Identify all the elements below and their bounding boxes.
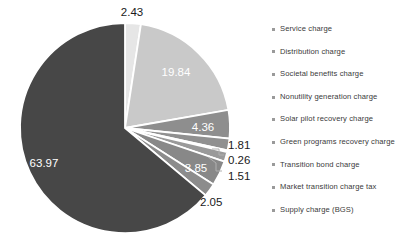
legend-marker-icon xyxy=(272,50,275,53)
legend-item-market-transition-charge-tax[interactable]: Market transition charge tax xyxy=(272,176,410,199)
slice-label-transition-bond-charge: 3.85 xyxy=(185,162,207,174)
legend-marker-icon xyxy=(272,141,275,144)
slice-label-green-programs-recovery-charge: 1.51 xyxy=(228,170,250,182)
legend-label: Distribution charge xyxy=(280,41,345,64)
slice-label-nonutility-generation-charge: 1.81 xyxy=(228,139,250,151)
legend-marker-icon xyxy=(272,96,275,99)
pie-chart: 2.43 19.84 4.36 1.81 0.26 1.51 3.85 2.05… xyxy=(0,0,260,242)
legend-label: Nonutility generation charge xyxy=(280,86,377,109)
legend-marker-icon xyxy=(272,118,275,121)
pie-chart-page: 2.43 19.84 4.36 1.81 0.26 1.51 3.85 2.05… xyxy=(0,0,410,242)
legend: Service charge Distribution charge Socie… xyxy=(272,18,410,228)
slice-label-service-charge: 2.43 xyxy=(121,6,143,18)
legend-label: Market transition charge tax xyxy=(280,176,377,199)
legend-label: Supply charge (BGS) xyxy=(280,199,354,222)
legend-item-nonutility-generation-charge[interactable]: Nonutility generation charge xyxy=(272,86,410,109)
legend-label: Solar pilot recovery charge xyxy=(280,108,373,131)
legend-marker-icon xyxy=(272,163,275,166)
legend-marker-icon xyxy=(272,209,275,212)
slice-label-supply-charge-bgs: 63.97 xyxy=(30,157,59,169)
legend-item-service-charge[interactable]: Service charge xyxy=(272,18,410,41)
legend-label: Service charge xyxy=(280,18,332,41)
legend-item-solar-pilot-recovery-charge[interactable]: Solar pilot recovery charge xyxy=(272,108,410,131)
legend-marker-icon xyxy=(272,28,275,31)
legend-label: Green programs recovery charge xyxy=(280,131,395,154)
legend-item-transition-bond-charge[interactable]: Transition bond charge xyxy=(272,154,410,177)
legend-label: Societal benefits charge xyxy=(280,63,363,86)
legend-marker-icon xyxy=(272,186,275,189)
legend-marker-icon xyxy=(272,73,275,76)
slice-label-solar-pilot-recovery-charge: 0.26 xyxy=(228,154,250,166)
legend-label: Transition bond charge xyxy=(280,154,360,177)
legend-item-supply-charge-bgs[interactable]: Supply charge (BGS) xyxy=(272,199,410,222)
slice-label-market-transition-charge-tax: 2.05 xyxy=(200,196,222,208)
legend-item-societal-benefits-charge[interactable]: Societal benefits charge xyxy=(272,63,410,86)
legend-item-distribution-charge[interactable]: Distribution charge xyxy=(272,41,410,64)
legend-item-green-programs-recovery-charge[interactable]: Green programs recovery charge xyxy=(272,131,410,154)
slice-label-societal-benefits-charge: 4.36 xyxy=(192,121,214,133)
slice-label-distribution-charge: 19.84 xyxy=(162,66,191,78)
